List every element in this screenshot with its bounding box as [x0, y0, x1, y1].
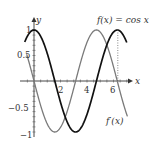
tick-label-x-4: 4	[84, 85, 89, 95]
tick-label-y-1: 1	[26, 25, 31, 35]
tick-label-y-neg-0.5: −0.5	[8, 103, 29, 113]
tick-label-x-6: 6	[110, 85, 115, 95]
cosine-label: f(x) = cos x	[96, 15, 149, 25]
derivative-label: f′(x)	[105, 116, 124, 126]
cosine-derivative-diagram: y x f(x) = cos x f′(x) 2 4 6 1 0.5 −0.5 …	[0, 0, 152, 145]
tick-label-y-0.5: 0.5	[17, 50, 31, 60]
x-axis-label: x	[135, 76, 140, 86]
tick-label-x-2: 2	[58, 85, 63, 95]
y-axis-label: y	[35, 15, 42, 25]
tick-label-y-neg-1: −1	[20, 130, 33, 140]
x-axis-arrow-icon	[128, 79, 133, 84]
